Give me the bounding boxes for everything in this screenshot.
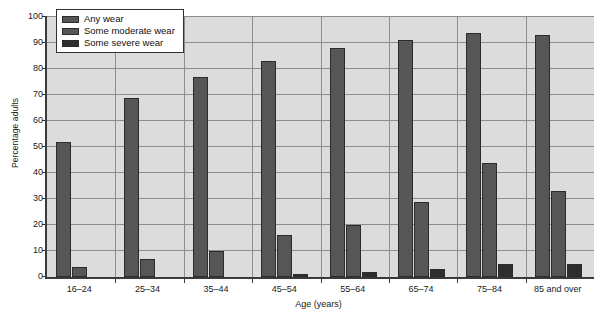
legend-swatch-icon: [62, 16, 79, 23]
bar: [346, 225, 361, 277]
x-tick-label: 55–64: [319, 284, 387, 294]
y-tick-label: 50: [3, 142, 43, 151]
x-tick-mark: [321, 277, 322, 283]
bar: [124, 98, 139, 277]
x-tick-mark: [389, 277, 390, 283]
x-tick-mark: [184, 277, 185, 283]
plot-area: [45, 17, 594, 279]
gridline-vertical: [526, 17, 527, 277]
bar: [293, 274, 308, 277]
legend-item: Any wear: [62, 13, 175, 25]
y-tick-label: 10: [3, 246, 43, 255]
y-tick-label: 0: [3, 272, 43, 281]
y-tick-label: 90: [3, 38, 43, 47]
bar: [209, 251, 224, 277]
bar: [56, 142, 71, 277]
bar: [535, 35, 550, 277]
bar: [567, 264, 582, 277]
y-tick-label: 40: [3, 168, 43, 177]
y-tick-label: 30: [3, 194, 43, 203]
legend-swatch-icon: [62, 40, 79, 47]
bar: [140, 259, 155, 277]
y-tick-label: 70: [3, 90, 43, 99]
bar-chart: Percentage adults 0102030405060708090100…: [0, 0, 596, 310]
x-tick-mark: [457, 277, 458, 283]
legend-item: Some moderate wear: [62, 25, 175, 37]
gridline-vertical: [115, 17, 116, 277]
x-tick-label: 75–84: [455, 284, 523, 294]
chart-legend: Any wearSome moderate wearSome severe we…: [56, 9, 184, 53]
y-tick-label: 60: [3, 116, 43, 125]
bar: [261, 61, 276, 277]
x-tick-label: 45–54: [250, 284, 318, 294]
bar: [330, 48, 345, 277]
legend-swatch-icon: [62, 28, 79, 35]
y-tick-label: 80: [3, 64, 43, 73]
legend-label: Some severe wear: [84, 37, 163, 49]
bar: [398, 40, 413, 277]
gridline-vertical: [252, 17, 253, 277]
x-tick-label: 65–74: [387, 284, 455, 294]
bar: [482, 163, 497, 277]
gridline-vertical: [321, 17, 322, 277]
gridline-vertical: [184, 17, 185, 277]
x-tick-mark: [526, 277, 527, 283]
x-axis-title: Age (years): [45, 299, 592, 309]
legend-label: Some moderate wear: [84, 25, 175, 37]
bar: [551, 191, 566, 277]
x-tick-label: 25–34: [113, 284, 181, 294]
bar: [430, 269, 445, 277]
bar: [362, 272, 377, 277]
x-tick-label: 85 and over: [524, 284, 592, 294]
x-tick-mark: [115, 277, 116, 283]
x-tick-label: 16–24: [45, 284, 113, 294]
legend-item: Some severe wear: [62, 37, 175, 49]
gridline-vertical: [389, 17, 390, 277]
x-tick-label: 35–44: [182, 284, 250, 294]
bar: [277, 235, 292, 277]
legend-label: Any wear: [84, 13, 124, 25]
bar: [193, 77, 208, 277]
gridline-vertical: [457, 17, 458, 277]
bar: [72, 267, 87, 277]
bar: [498, 264, 513, 277]
y-tick-label: 20: [3, 220, 43, 229]
x-tick-mark: [252, 277, 253, 283]
y-tick-label: 100: [3, 12, 43, 21]
bar: [466, 33, 481, 277]
bar: [414, 202, 429, 277]
